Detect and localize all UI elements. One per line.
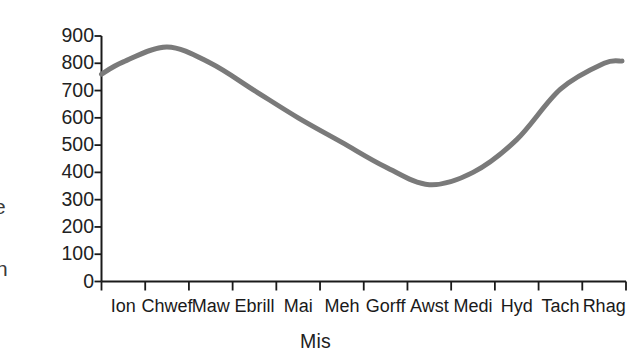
x-axis-title: Mis — [0, 330, 631, 353]
x-axis-tick-label: Ebrill — [234, 297, 274, 315]
x-axis-tick-label: Rhag — [583, 297, 626, 315]
x-axis-tick-label: Maw — [192, 297, 230, 315]
discharge-series-line — [102, 47, 623, 185]
x-axis-tick-label: Tach — [541, 297, 579, 315]
x-axis-tick-labels: IonChwefMawEbrillMaiMehGorffAwstMediHydT… — [100, 297, 631, 323]
x-axis-tick-label: Medi — [454, 297, 493, 315]
x-axis-tick-label: Gorff — [366, 297, 406, 315]
x-axis-tick-label: Awst — [410, 297, 449, 315]
x-axis-tick-label: Mai — [284, 297, 313, 315]
x-axis-tick-label: Chwef — [142, 297, 193, 315]
axis-lines — [102, 36, 627, 282]
x-axis-tick-label: Meh — [324, 297, 359, 315]
x-axis-tick-label: Hyd — [501, 297, 533, 315]
x-axis-tick-label: Ion — [111, 297, 136, 315]
chart-figure: e n Arllwysiad cyfartalog (m3/s) 0100200… — [0, 0, 631, 364]
x-axis-tick-marks — [102, 282, 627, 291]
